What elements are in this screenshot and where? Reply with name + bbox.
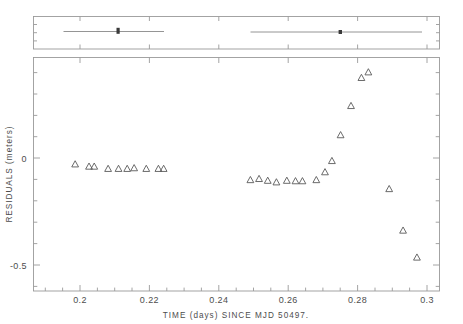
data-point-marker [322, 169, 329, 175]
y-tick-label: 0 [22, 154, 27, 164]
y-tick-label: -0.5 [10, 261, 27, 271]
data-point-marker [115, 165, 122, 171]
data-point-marker [131, 165, 138, 171]
top-panel [34, 17, 440, 50]
residuals-figure: 0.2 0.22 0.24 0.26 0.28 0.3 0 -0.5 TIME … [0, 0, 463, 324]
data-point-marker [329, 157, 336, 163]
data-point-marker [143, 165, 150, 171]
data-point-marker [273, 179, 280, 185]
x-axis-minor-ticks [45, 288, 409, 291]
data-point-marker [160, 165, 167, 171]
y-axis-minor-ticks [34, 73, 440, 287]
x-axis-top-ticks [80, 58, 427, 64]
x-tick-label: 0.3 [420, 295, 434, 305]
data-point-marker [414, 254, 421, 260]
data-point-marker [386, 185, 393, 191]
data-point-marker [256, 175, 263, 181]
data-point-marker [348, 102, 355, 108]
data-point-marker [264, 177, 271, 183]
y-axis-major-ticks [34, 158, 440, 265]
data-point-marker [365, 69, 372, 75]
x-tick-label: 0.24 [209, 295, 228, 305]
data-point-marker [313, 176, 320, 182]
coverage-bar-1 [64, 28, 165, 34]
coverage-bar-1-point [117, 28, 120, 34]
main-panel [34, 58, 440, 292]
top-panel-ticks-left [34, 25, 38, 41]
data-point-marker [72, 161, 79, 167]
coverage-bar-2 [251, 30, 423, 34]
data-point-marker [105, 165, 112, 171]
x-tick-label: 0.28 [348, 295, 367, 305]
data-point-marker [91, 163, 98, 169]
x-tick-label: 0.22 [140, 295, 159, 305]
main-panel-frame [34, 58, 440, 292]
plot-canvas: 0.2 0.22 0.24 0.26 0.28 0.3 0 -0.5 TIME … [0, 0, 463, 324]
y-axis-title: RESIDUALS (meters) [5, 125, 14, 222]
top-panel-frame [34, 17, 440, 50]
data-point-marker [247, 176, 254, 182]
data-point-marker [299, 178, 306, 184]
data-point-marker [337, 132, 344, 138]
x-tick-label: 0.26 [279, 295, 298, 305]
top-panel-ticks-bottom [80, 45, 427, 50]
x-tick-label: 0.2 [73, 295, 87, 305]
data-point-marker [400, 227, 407, 233]
data-point-marker [292, 178, 299, 184]
x-tick-labels: 0.2 0.22 0.24 0.26 0.28 0.3 [73, 295, 434, 305]
data-point-marker [124, 165, 131, 171]
x-axis-title: TIME (days) SINCE MJD 50497. [163, 311, 309, 320]
data-point-marker [358, 74, 365, 80]
data-point-marker [283, 177, 290, 183]
top-panel-ticks-right [436, 25, 440, 41]
coverage-bar-2-point [339, 30, 342, 34]
top-panel-ticks-top [80, 17, 427, 22]
data-point-group [72, 69, 421, 260]
